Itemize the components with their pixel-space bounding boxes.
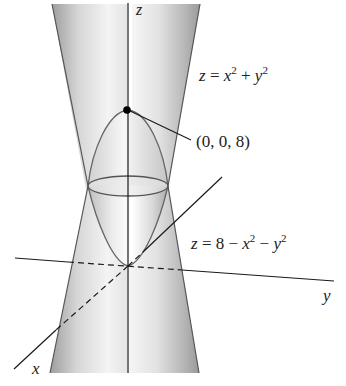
lower-paraboloid-equation: z = 8 − x2 − y2 — [191, 235, 287, 252]
upper-paraboloid-equation: z = x2 + y2 — [199, 67, 268, 84]
y-axis-right — [182, 270, 334, 281]
y-axis-left — [15, 258, 68, 262]
z-axis-label: z — [136, 2, 142, 18]
paraboloids-diagram — [0, 0, 346, 386]
x-axis-label: x — [32, 360, 40, 377]
point-0-0-8 — [123, 106, 131, 114]
point-label: (0, 0, 8) — [196, 133, 250, 150]
y-axis-label: y — [323, 287, 331, 304]
